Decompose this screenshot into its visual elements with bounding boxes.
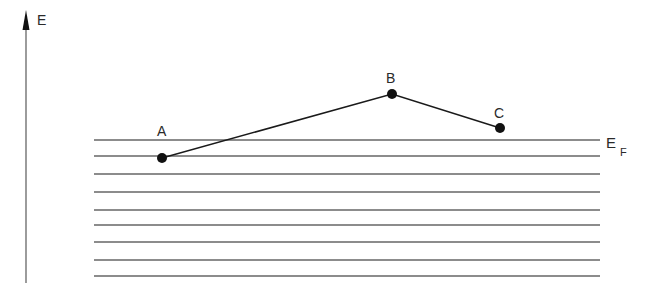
axis-label: E xyxy=(37,12,46,28)
fermi-label-sub: F xyxy=(620,146,627,158)
point-a xyxy=(157,153,167,163)
axis-arrow-icon xyxy=(23,10,30,30)
point-b-label: B xyxy=(386,70,395,86)
point-c-label: C xyxy=(494,105,504,121)
transition-path xyxy=(162,94,500,158)
point-b xyxy=(387,89,397,99)
fermi-label-main: E xyxy=(606,134,616,151)
point-a-label: A xyxy=(157,123,167,139)
point-c xyxy=(495,123,505,133)
energy-diagram: E E F A B C xyxy=(0,0,648,293)
energy-levels xyxy=(94,140,600,276)
